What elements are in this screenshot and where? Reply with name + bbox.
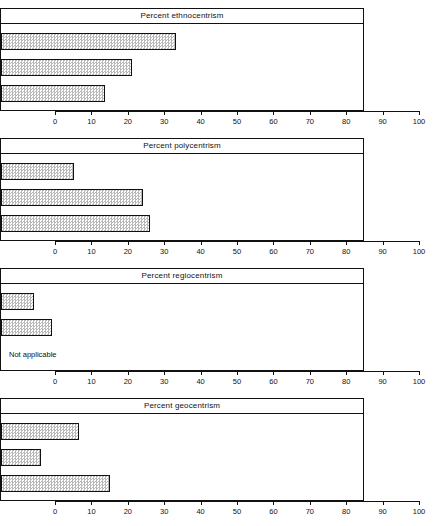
chart-panel-polycentrism: Alpha Beta Gamma Percent polycentrism	[0, 130, 441, 260]
axis-tick	[310, 371, 311, 375]
axis-tick-label: 30	[160, 377, 168, 386]
axis-tick	[128, 111, 129, 115]
chart-frame: Percent ethnocentrism	[0, 8, 364, 111]
bar	[1, 163, 74, 180]
axis-tick-label: 60	[269, 247, 277, 256]
chart-panel-regiocentrism: Alpha Beta Gamma Percent regiocentrism	[0, 260, 441, 390]
axis-tick-label: 70	[306, 117, 314, 126]
bar	[1, 293, 34, 310]
chart-frame: Percent regiocentrism Not applicable	[0, 268, 364, 371]
axis-tick-label: 20	[124, 117, 132, 126]
axis-tick-label: 90	[378, 247, 386, 256]
chart-panel-ethnocentrism: Alpha Beta Gamma Percent ethnocentrism	[0, 0, 441, 130]
axis-tick	[383, 371, 384, 375]
chart-panel-geocentrism: Alpha Beta Gamma Percent geocentrism	[0, 390, 441, 520]
axis-tick	[273, 501, 274, 505]
table-row	[1, 59, 363, 76]
axis-tick-label: 60	[269, 377, 277, 386]
bar	[1, 215, 150, 232]
x-axis: 0102030405060708090100	[55, 371, 419, 390]
axis-tick	[419, 501, 420, 505]
axis-tick-label: 10	[87, 117, 95, 126]
axis-tick-label: 90	[378, 117, 386, 126]
table-row	[1, 163, 363, 180]
axis-tick	[91, 241, 92, 245]
bar	[1, 475, 110, 492]
axis-tick-label: 40	[196, 507, 204, 516]
axis-tick-label: 40	[196, 377, 204, 386]
plot-area	[1, 24, 363, 110]
axis-tick	[346, 371, 347, 375]
axis-tick	[201, 241, 202, 245]
axis-tick	[383, 501, 384, 505]
axis-tick-label: 10	[87, 507, 95, 516]
axis-tick-label: 20	[124, 377, 132, 386]
bar	[1, 423, 79, 440]
axis-tick	[383, 241, 384, 245]
axis-tick-label: 50	[233, 507, 241, 516]
axis-tick	[237, 241, 238, 245]
table-row	[1, 475, 363, 492]
axis-tick	[55, 111, 56, 115]
x-axis: 0102030405060708090100	[55, 111, 419, 130]
bar	[1, 33, 176, 50]
bar	[1, 59, 132, 76]
axis-tick	[419, 241, 420, 245]
axis-tick	[237, 111, 238, 115]
axis-tick	[310, 111, 311, 115]
axis-tick	[419, 111, 420, 115]
table-row	[1, 215, 363, 232]
axis-tick-label: 60	[269, 117, 277, 126]
axis-tick	[164, 111, 165, 115]
axis-tick	[237, 371, 238, 375]
axis-tick-label: 80	[342, 247, 350, 256]
axis-tick-label: 0	[53, 247, 57, 256]
axis-tick-label: 20	[124, 247, 132, 256]
axis-tick-label: 0	[53, 377, 57, 386]
chart-title-band: Percent regiocentrism	[1, 269, 363, 284]
axis-tick-label: 40	[196, 117, 204, 126]
axis-tick	[273, 371, 274, 375]
axis-tick	[201, 501, 202, 505]
axis-tick-label: 30	[160, 507, 168, 516]
chart-title: Percent geocentrism	[144, 402, 220, 410]
axis-tick	[128, 241, 129, 245]
bar	[1, 189, 143, 206]
table-row	[1, 319, 363, 336]
chart-frame: Percent polycentrism	[0, 138, 364, 241]
axis-tick-label: 20	[124, 507, 132, 516]
table-row	[1, 293, 363, 310]
axis-tick	[310, 241, 311, 245]
axis-tick-label: 10	[87, 377, 95, 386]
chart-title-band: Percent polycentrism	[1, 139, 363, 154]
axis-tick	[55, 501, 56, 505]
axis-tick-label: 80	[342, 377, 350, 386]
figure-sheet: Alpha Beta Gamma Percent ethnocentrism	[0, 0, 441, 526]
axis-tick	[128, 371, 129, 375]
axis-tick	[419, 371, 420, 375]
axis-tick-label: 70	[306, 247, 314, 256]
x-axis: 0102030405060708090100	[55, 501, 419, 520]
chart-title: Percent ethnocentrism	[140, 12, 223, 20]
axis-tick-label: 40	[196, 247, 204, 256]
chart-title: Percent polycentrism	[143, 142, 221, 150]
axis-tick-label: 50	[233, 377, 241, 386]
axis-tick	[164, 501, 165, 505]
axis-tick	[346, 501, 347, 505]
axis-tick	[55, 371, 56, 375]
axis-tick-label: 10	[87, 247, 95, 256]
axis-tick-label: 100	[413, 117, 426, 126]
axis-tick	[164, 371, 165, 375]
axis-tick-label: 0	[53, 507, 57, 516]
axis-tick-label: 50	[233, 247, 241, 256]
axis-tick	[237, 501, 238, 505]
axis-tick-label: 30	[160, 247, 168, 256]
axis-tick-label: 60	[269, 507, 277, 516]
table-row	[1, 33, 363, 50]
plot-area	[1, 414, 363, 500]
axis-tick-label: 100	[413, 377, 426, 386]
axis-tick-label: 80	[342, 507, 350, 516]
table-row	[1, 189, 363, 206]
axis-tick	[310, 501, 311, 505]
table-row: Not applicable	[1, 345, 363, 362]
